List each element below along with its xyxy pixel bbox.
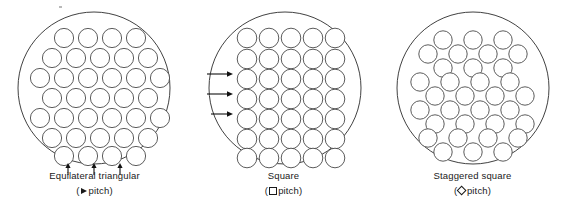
tube-circle bbox=[325, 148, 345, 168]
paren-open: ( bbox=[76, 185, 79, 196]
tube-circle bbox=[78, 68, 97, 87]
tube-circle bbox=[30, 68, 49, 87]
caption-title-equilateral-triangular: Equilateral triangular bbox=[0, 170, 189, 182]
tube-circle bbox=[303, 109, 323, 129]
diamond-icon bbox=[457, 186, 467, 196]
caption-title-square: Square bbox=[189, 170, 378, 182]
tube-circle bbox=[259, 109, 279, 129]
pitch-label: pitch bbox=[278, 185, 299, 196]
tube-circle bbox=[259, 148, 279, 168]
tube-circle bbox=[237, 69, 257, 89]
equilateral-triangular-diagram bbox=[0, 0, 189, 175]
tube-circle bbox=[281, 109, 301, 129]
square-icon bbox=[269, 187, 277, 195]
tube-bundle bbox=[411, 31, 534, 161]
tube-circle bbox=[138, 48, 157, 67]
tube-circle bbox=[102, 28, 121, 47]
staggered-square-diagram bbox=[378, 0, 567, 175]
tube-circle bbox=[441, 101, 459, 119]
pitch-line: (pitch) bbox=[454, 185, 491, 197]
pitch-label: pitch bbox=[89, 185, 110, 196]
square-diagram bbox=[189, 0, 378, 175]
tube-circle bbox=[325, 129, 345, 149]
pitch-line: (pitch) bbox=[265, 185, 303, 197]
caption-pitch-square: (pitch) bbox=[189, 185, 378, 197]
tube-circle bbox=[325, 28, 345, 48]
tube-circle bbox=[281, 49, 301, 69]
tube-circle bbox=[54, 68, 73, 87]
tube-circle bbox=[509, 129, 527, 147]
tube-circle bbox=[150, 68, 169, 87]
tube-circle bbox=[479, 45, 497, 63]
tube-circle bbox=[464, 143, 482, 161]
tube-circle bbox=[281, 28, 301, 48]
tube-circle bbox=[434, 143, 452, 161]
flow-arrows bbox=[207, 71, 233, 117]
tube-circle bbox=[114, 128, 133, 147]
tube-circle bbox=[434, 31, 452, 49]
tube-circle bbox=[259, 129, 279, 149]
tube-circle bbox=[126, 68, 145, 87]
tube-circle bbox=[237, 28, 257, 48]
tube-circle bbox=[237, 89, 257, 109]
tube-circle bbox=[325, 109, 345, 129]
tube-circle bbox=[325, 89, 345, 109]
tube-circle bbox=[126, 146, 145, 165]
tube-circle bbox=[90, 128, 109, 147]
tube-circle bbox=[303, 148, 323, 168]
tube-circle bbox=[54, 108, 73, 127]
tube-circle bbox=[464, 31, 482, 49]
tube-bundle bbox=[30, 28, 169, 165]
tube-circle bbox=[78, 108, 97, 127]
tube-circle bbox=[114, 88, 133, 107]
tube-circle bbox=[281, 89, 301, 109]
tube-circle bbox=[126, 108, 145, 127]
tube-circle bbox=[259, 28, 279, 48]
tube-circle bbox=[138, 128, 157, 147]
caption-pitch-equilateral-triangular: (pitch) bbox=[0, 185, 189, 197]
flow-arrow-head bbox=[227, 71, 233, 77]
tube-circle bbox=[449, 129, 467, 147]
tube-circle bbox=[102, 68, 121, 87]
tube-circle bbox=[237, 49, 257, 69]
tube-circle bbox=[114, 48, 133, 67]
paren-close: ) bbox=[299, 185, 302, 196]
tube-circle bbox=[90, 88, 109, 107]
tube-circle bbox=[237, 109, 257, 129]
tube-circle bbox=[411, 73, 429, 91]
tube-circle bbox=[516, 87, 534, 105]
panel-staggered-square: Staggered square (pitch) bbox=[378, 0, 567, 211]
tube-circle bbox=[259, 69, 279, 89]
tube-circle bbox=[471, 73, 489, 91]
tube-circle bbox=[237, 148, 257, 168]
tube-circle bbox=[419, 45, 437, 63]
tube-circle bbox=[325, 49, 345, 69]
panel-square: Square (pitch) bbox=[189, 0, 378, 211]
tube-circle bbox=[281, 69, 301, 89]
paren-open: ( bbox=[265, 185, 268, 196]
tube-circle bbox=[54, 146, 73, 165]
caption-title-staggered-square: Staggered square bbox=[378, 170, 567, 182]
tube-circle bbox=[78, 28, 97, 47]
triangle-right-icon bbox=[81, 188, 87, 194]
tube-circle bbox=[42, 128, 61, 147]
tube-circle bbox=[237, 129, 257, 149]
tube-circle bbox=[426, 87, 444, 105]
tube-circle bbox=[501, 73, 519, 91]
tube-circle bbox=[509, 45, 527, 63]
tube-circle bbox=[66, 88, 85, 107]
tube-circle bbox=[471, 101, 489, 119]
pitch-line: (pitch) bbox=[76, 185, 112, 197]
flow-arrow-head bbox=[227, 111, 233, 117]
tube-circle bbox=[303, 49, 323, 69]
tube-circle bbox=[303, 129, 323, 149]
tube-circle bbox=[259, 49, 279, 69]
tube-circle bbox=[150, 108, 169, 127]
tube-circle bbox=[419, 129, 437, 147]
paren-close: ) bbox=[488, 185, 491, 196]
tube-circle bbox=[456, 87, 474, 105]
tube-circle bbox=[479, 129, 497, 147]
tube-circle bbox=[325, 69, 345, 89]
tube-circle bbox=[102, 146, 121, 165]
tube-circle bbox=[102, 108, 121, 127]
